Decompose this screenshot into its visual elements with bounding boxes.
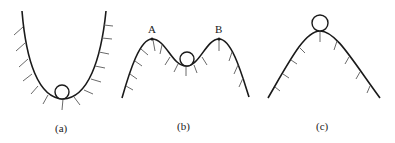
peak-point-b [217,37,220,40]
ball [180,52,194,66]
panel-c: (c) [268,15,380,133]
peak-label-b: B [215,23,222,35]
panel-label-c: (c) [316,120,329,133]
ball [55,85,69,99]
panel-label-b: (b) [177,120,190,133]
panel-label-a: (a) [55,122,68,135]
equilibrium-diagram: (a) A B (b) [0,0,395,143]
ball [312,15,328,31]
peak-point-a [150,37,153,40]
panel-a: (a) [14,11,113,135]
hill-curve [268,31,380,98]
peak-label-a: A [148,23,156,35]
panel-b: A B (b) [122,23,249,133]
